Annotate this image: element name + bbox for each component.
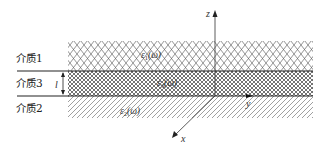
epsilon-2-label: ε2(ω) xyxy=(120,106,140,117)
medium-3-region xyxy=(68,71,313,96)
layered-media-diagram: 介质1 介质3 介质2 ε1(ω) ε3(ω) ε2(ω) l z y x xyxy=(0,0,329,153)
y-axis-label: y xyxy=(245,98,251,109)
epsilon-3-label: ε3(ω) xyxy=(157,78,177,89)
medium-3-label: 介质3 xyxy=(16,77,43,89)
medium-1-region xyxy=(68,41,313,71)
x-axis-arrow-icon xyxy=(172,131,178,138)
epsilon-1-label: ε1(ω) xyxy=(141,50,161,61)
x-axis-label: x xyxy=(180,133,186,144)
medium-2-label: 介质2 xyxy=(16,102,43,114)
z-axis-label: z xyxy=(205,8,210,19)
medium-1-label: 介质1 xyxy=(16,52,43,64)
z-axis-arrow-icon xyxy=(213,10,218,17)
thickness-label: l xyxy=(55,79,58,90)
medium-2-region xyxy=(68,96,313,118)
thickness-dimension-arrow xyxy=(61,72,65,95)
